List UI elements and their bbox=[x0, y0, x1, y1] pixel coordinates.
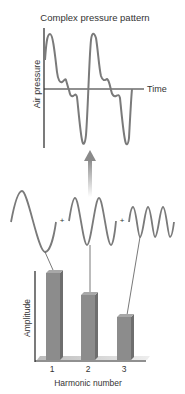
harmonic-number-label: Harmonic number bbox=[54, 378, 122, 388]
bar-harmonic-3 bbox=[117, 314, 134, 360]
bar-harmonic-1 bbox=[46, 270, 63, 360]
bar-harmonic-2 bbox=[81, 292, 98, 360]
tick-label-3: 3 bbox=[122, 364, 127, 374]
harmonic-2-wave bbox=[69, 198, 116, 245]
harmonic-1-wave bbox=[11, 191, 56, 252]
time-label: Time bbox=[147, 84, 167, 94]
air-pressure-label: Air pressure bbox=[32, 60, 42, 109]
harmonic-3-wave bbox=[129, 207, 174, 237]
tick-label-1: 1 bbox=[50, 364, 55, 374]
pressure-title: Complex pressure pattern bbox=[40, 12, 149, 23]
harmonics-diagram: Complex pressure pattern Time Air pressu… bbox=[0, 0, 185, 394]
sum-arrow bbox=[84, 150, 96, 197]
tick-label-2: 2 bbox=[86, 364, 91, 374]
complex-pressure-panel: Complex pressure pattern Time Air pressu… bbox=[32, 12, 167, 148]
plus-sign-1: + bbox=[60, 216, 65, 225]
amplitude-label: Amplitude bbox=[22, 299, 32, 337]
plus-sign-2: + bbox=[120, 216, 125, 225]
harmonic-waves: + + bbox=[11, 191, 174, 252]
amplitude-bar-chart: 1 2 3 Harmonic number Amplitude bbox=[22, 270, 150, 388]
